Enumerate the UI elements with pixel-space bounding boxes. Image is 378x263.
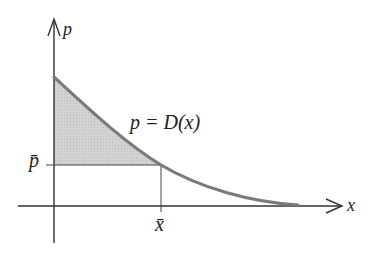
- quantity-level-label: x̄: [155, 214, 164, 234]
- y-axis-label: p: [63, 20, 72, 38]
- demand-curve-label: p = D(x): [130, 112, 200, 132]
- x-axis-label: x: [347, 196, 355, 214]
- price-level-label: p̄: [29, 150, 39, 170]
